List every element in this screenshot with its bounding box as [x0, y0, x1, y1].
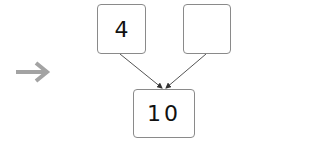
connector-right: [166, 54, 206, 88]
part-left-value: 4: [115, 17, 129, 42]
whole-box[interactable]: 10: [133, 89, 195, 138]
whole-value: 10: [147, 101, 181, 126]
connector-left: [120, 54, 162, 88]
part-box-right-empty[interactable]: [183, 4, 231, 54]
part-box-left[interactable]: 4: [97, 4, 146, 54]
